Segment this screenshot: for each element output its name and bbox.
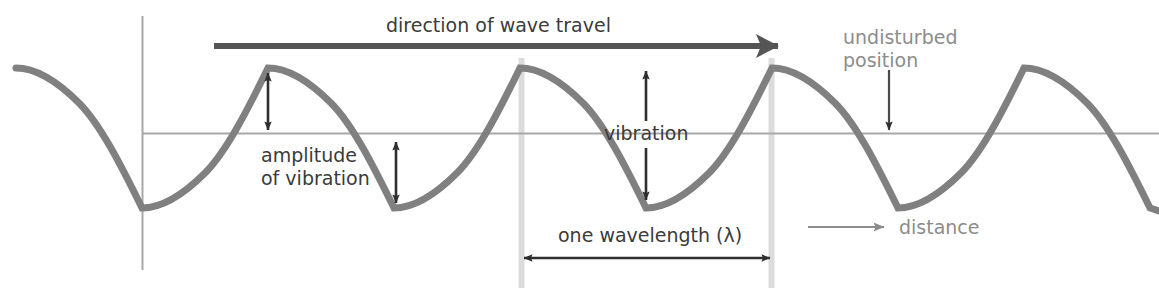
wavelength-marker-left bbox=[519, 58, 525, 288]
wave-diagram-canvas bbox=[0, 0, 1159, 297]
label-direction-of-wave-travel: direction of wave travel bbox=[386, 14, 611, 37]
label-amplitude-line1: amplitude bbox=[261, 144, 357, 166]
label-vibration: vibration bbox=[604, 122, 688, 145]
label-distance: distance bbox=[899, 216, 980, 239]
wave-curve bbox=[16, 68, 1159, 211]
label-amplitude-of-vibration: amplitudeof vibration bbox=[261, 144, 370, 190]
wavelength-marker-right bbox=[769, 58, 775, 288]
wave-diagram: direction of wave travel amplitudeof vib… bbox=[0, 0, 1159, 297]
label-undisturbed-line1: undisturbed bbox=[843, 26, 957, 48]
label-undisturbed-position: undisturbedposition bbox=[843, 26, 957, 72]
label-amplitude-line2: of vibration bbox=[261, 167, 370, 189]
label-undisturbed-line2: position bbox=[843, 49, 918, 71]
label-one-wavelength: one wavelength (λ) bbox=[558, 224, 742, 247]
